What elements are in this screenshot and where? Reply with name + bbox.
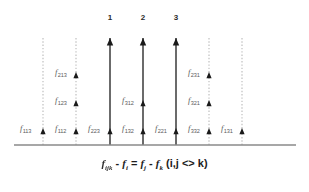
- transition-label-f213: f213: [55, 68, 67, 79]
- arrowhead-icon: [239, 128, 244, 134]
- equation-term-1: fijk: [101, 157, 112, 169]
- arrowhead-icon: [140, 38, 146, 46]
- equation-operator-2: =: [128, 157, 141, 169]
- transition-label-f132: f132: [122, 124, 134, 135]
- transition-label-f112: f112: [55, 124, 66, 135]
- transition-label-f123: f123: [55, 96, 67, 107]
- arrowhead-icon: [107, 38, 113, 46]
- arrowhead-icon: [206, 72, 211, 78]
- line-number-marker-3: 3: [169, 14, 183, 22]
- equation-term-4: fk: [156, 157, 163, 169]
- arrowhead-icon: [206, 100, 211, 106]
- arrowhead-icon: [173, 128, 178, 134]
- arrowhead-icon: [107, 128, 112, 134]
- arrowhead-icon: [73, 72, 78, 78]
- line-number-marker-1: 1: [103, 14, 117, 22]
- arrowhead-icon: [73, 100, 78, 106]
- arrowhead-icon: [173, 38, 179, 46]
- equation-operator-3: -: [146, 157, 156, 169]
- equation-caption: fijk - fi = fj - fk (i,j <> k): [0, 158, 309, 172]
- arrowhead-icon: [140, 100, 145, 106]
- transition-label-f221: f221: [155, 124, 167, 135]
- transition-label-f231: f231: [188, 68, 200, 79]
- arrowhead-icon: [206, 128, 211, 134]
- transition-label-f332: f332: [188, 124, 200, 135]
- transition-label-f312: f312: [122, 96, 134, 107]
- transition-label-f113: f113: [20, 124, 31, 135]
- arrowhead-icon: [140, 128, 145, 134]
- equation-condition: (i,j <> k): [163, 157, 208, 169]
- transition-label-f321: f321: [188, 96, 200, 107]
- equation-operator-1: -: [112, 157, 122, 169]
- arrowhead-icon: [73, 128, 78, 134]
- arrowhead-icon: [40, 128, 45, 134]
- transition-label-f223: f223: [88, 124, 100, 135]
- line-number-marker-2: 2: [136, 14, 150, 22]
- transition-label-f131: f131: [221, 124, 233, 135]
- figure-canvas: 123 f113f213f123f112f223f312f132f221f231…: [0, 0, 309, 192]
